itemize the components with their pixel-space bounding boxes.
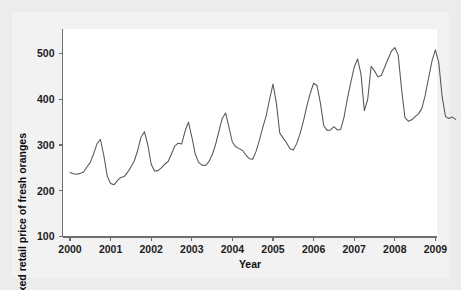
x-tick-labels: 2000200120022003200420052006200720082009	[58, 243, 447, 255]
x-tick-label-2001: 2001	[99, 243, 123, 255]
x-tick-label-2002: 2002	[140, 243, 164, 255]
x-tick-label-2004: 2004	[221, 243, 245, 255]
y-tick-label-200: 200	[37, 185, 55, 197]
x-tick-label-2000: 2000	[58, 243, 82, 255]
y-tick-label-100: 100	[37, 230, 55, 242]
y-tick-label-300: 300	[37, 139, 55, 151]
x-tick-label-2008: 2008	[383, 243, 407, 255]
x-axis-title: Year	[239, 258, 261, 270]
x-tick-label-2006: 2006	[302, 243, 326, 255]
y-ticks	[59, 54, 63, 237]
x-tick-label-2005: 2005	[261, 243, 285, 255]
price-series-line	[70, 48, 456, 185]
figure-container: 100200300400500 200020012002200320042005…	[0, 0, 461, 290]
x-ticks	[70, 237, 435, 241]
y-axis-title: Indexed retail price of fresh oranges	[16, 133, 28, 290]
y-tick-label-500: 500	[37, 47, 55, 59]
y-tick-labels: 100200300400500	[37, 47, 55, 242]
x-tick-label-2007: 2007	[343, 243, 367, 255]
y-tick-label-400: 400	[37, 93, 55, 105]
x-tick-label-2003: 2003	[180, 243, 204, 255]
x-tick-label-2009: 2009	[424, 243, 448, 255]
chart-svg: 100200300400500 200020012002200320042005…	[0, 0, 461, 290]
